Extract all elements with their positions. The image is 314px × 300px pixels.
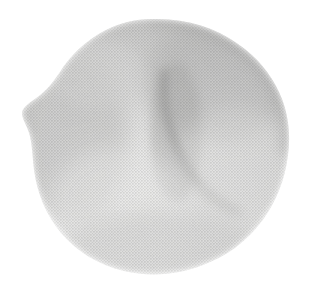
specimen-illustration <box>0 0 314 300</box>
image-canvas: Grayscale scan of a rounded organic spec… <box>0 0 314 300</box>
